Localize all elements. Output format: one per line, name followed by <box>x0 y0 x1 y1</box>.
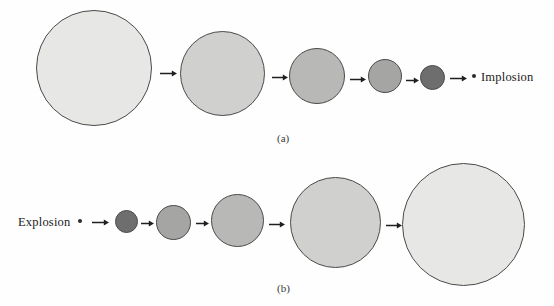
panel-b-circle-1 <box>115 210 138 233</box>
panel-b-caption: (b) <box>277 282 290 294</box>
panel-b-arrow-3 <box>196 219 209 229</box>
panel-a-circle-2 <box>180 31 265 116</box>
panel-b-arrow-2 <box>141 219 154 229</box>
implosion-label: Implosion <box>481 70 534 85</box>
panel-b-arrow-1 <box>92 218 109 228</box>
panel-b-circle-5 <box>402 163 525 286</box>
panel-a-arrow-5 <box>450 74 467 84</box>
panel-a-caption: (a) <box>277 132 289 144</box>
panel-a-arrow-1 <box>160 69 177 79</box>
implosion-explosion-figure: Implosion (a) Explosion (b) <box>0 0 554 306</box>
panel-a-circle-1 <box>36 10 152 126</box>
panel-a-endpoint-dot <box>472 74 476 78</box>
panel-a-arrow-3 <box>350 75 366 85</box>
explosion-label: Explosion <box>18 215 71 230</box>
panel-b-arrow-4 <box>269 220 285 230</box>
panel-b-circle-4 <box>290 177 381 268</box>
panel-a-circle-4 <box>368 59 402 93</box>
panel-b-arrow-5 <box>386 221 402 231</box>
panel-a-circle-5 <box>420 65 445 90</box>
panel-b-startpoint-dot <box>78 219 82 223</box>
panel-b-circle-3 <box>211 194 264 247</box>
panel-b-circle-2 <box>156 205 191 240</box>
panel-a-arrow-2 <box>272 73 288 83</box>
panel-a-circle-3 <box>289 48 345 104</box>
panel-a-arrow-4 <box>406 76 419 86</box>
